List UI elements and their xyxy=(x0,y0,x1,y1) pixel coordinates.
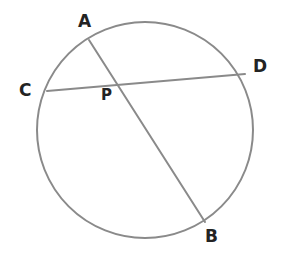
point-label-a: A xyxy=(78,13,91,30)
point-label-p: P xyxy=(101,88,112,103)
chord-cd-line xyxy=(47,74,245,91)
point-label-d: D xyxy=(253,58,267,75)
chord-ab-line xyxy=(89,40,205,222)
circle-outline xyxy=(37,22,253,238)
geometry-figure: A B C D P xyxy=(0,0,283,258)
geometry-canvas xyxy=(0,0,283,258)
point-label-b: B xyxy=(205,228,218,245)
point-label-c: C xyxy=(19,82,31,99)
